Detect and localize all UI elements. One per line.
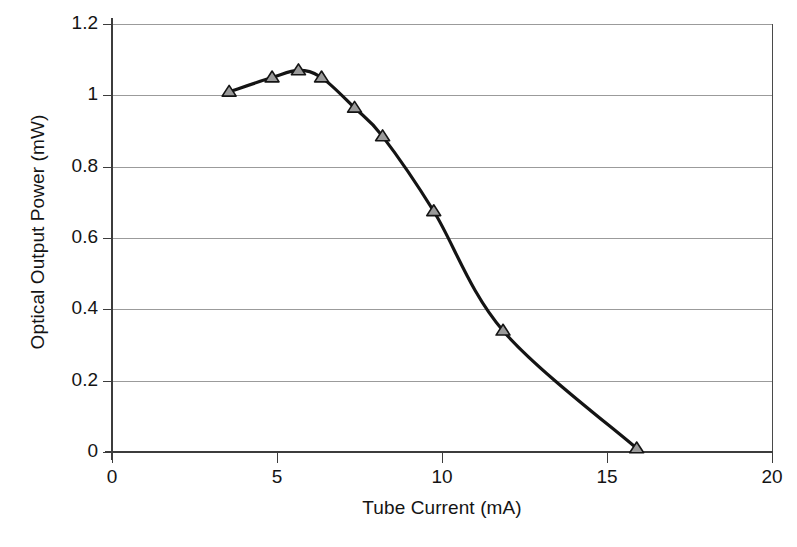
x-tick-label: 15 [577,466,637,488]
x-tick-label: 0 [82,466,142,488]
gridline-horizontal [112,381,772,382]
y-tick-label: 1 [28,83,98,105]
gridline-horizontal [112,309,772,310]
figure-container: Optical Output Power (mW) 00.20.40.60.81… [0,0,797,547]
gridline-horizontal [112,95,772,96]
x-tick-mark [607,453,608,463]
y-tick-label: 0 [28,440,98,462]
gridline-horizontal [112,238,772,239]
x-tick-label: 5 [247,466,307,488]
plot-area [112,24,772,452]
x-tick-label: 20 [742,466,797,488]
x-tick-mark [112,453,113,463]
x-tick-mark [442,453,443,463]
plot-frame-right-border [772,24,773,452]
x-tick-label: 10 [412,466,472,488]
y-axis-line [111,18,113,460]
x-tick-mark [772,453,773,463]
y-tick-label: 1.2 [28,12,98,34]
x-axis-title: Tube Current (mA) [112,497,772,519]
gridline-horizontal [112,24,772,25]
y-tick-label: 0.4 [28,297,98,319]
x-tick-mark [277,453,278,463]
gridline-horizontal [112,167,772,168]
y-tick-label: 0.2 [28,369,98,391]
x-axis-line [105,451,773,453]
y-tick-label: 0.6 [28,226,98,248]
y-tick-label: 0.8 [28,155,98,177]
